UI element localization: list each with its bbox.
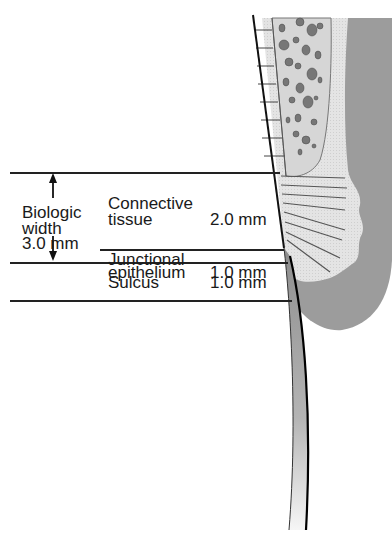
sulcus-measure: 1.0 mm: [210, 275, 267, 291]
sulcus-label-visible: Sulcus: [108, 275, 159, 291]
biologic-width-diagram: Biologic width 3.0 mm Connective tissue …: [0, 0, 392, 544]
biologic-width-arrow: [0, 0, 392, 544]
connective-tissue-measure: 2.0 mm: [210, 212, 267, 228]
biologic-width-value: 3.0 mm: [22, 236, 79, 252]
connective-tissue-label-line2: tissue: [108, 212, 152, 228]
